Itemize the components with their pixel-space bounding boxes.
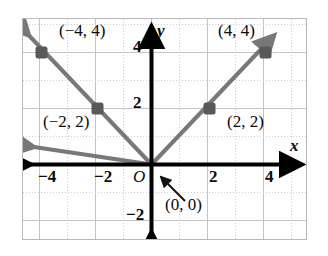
x-tick-2: 2 (209, 168, 218, 185)
marker-neg4-4 (36, 47, 48, 59)
point-label-2-2: (2, 2) (227, 113, 264, 130)
origin-label: O (133, 168, 145, 185)
marker-neg2-2 (92, 103, 104, 115)
marker-4-4 (260, 47, 272, 59)
x-tick-neg2: −2 (94, 168, 112, 185)
point-label-neg4-4: (−4, 4) (59, 22, 105, 39)
point-label-0-0: (0, 0) (165, 196, 202, 213)
y-tick-neg2: −2 (126, 206, 144, 223)
graph-figure: x y O −4 −2 2 4 4 2 −2 (−4, 4) (4, 4) (−… (0, 0, 328, 256)
x-axis-label: x (290, 137, 299, 154)
point-label-neg2-2: (−2, 2) (43, 113, 89, 130)
y-axis-label: y (157, 22, 165, 39)
point-label-4-4: (4, 4) (218, 22, 255, 39)
y-tick-2: 2 (133, 94, 142, 111)
curve-absolute-value (34, 147, 152, 165)
x-tick-4: 4 (265, 168, 274, 185)
marker-2-2 (204, 103, 216, 115)
x-tick-neg4: −4 (38, 168, 56, 185)
y-tick-4: 4 (133, 38, 142, 55)
